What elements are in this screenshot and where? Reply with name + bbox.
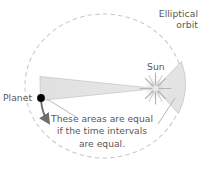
sun-label: Sun (147, 61, 165, 72)
caption-line-2: if the time intervals (38, 125, 166, 137)
caption-line-3: are equal. (38, 138, 166, 150)
planet-dot-icon (37, 94, 45, 102)
planet-label: Planet (3, 92, 32, 103)
caption-line-1: These areas are equal (38, 113, 166, 125)
sun-core (152, 85, 158, 91)
swept-area-wedge-left (40, 77, 156, 101)
elliptical-orbit-label-line1: Elliptical (159, 8, 198, 19)
elliptical-orbit-label-line2: orbit (144, 19, 198, 30)
elliptical-orbit-label: Elliptical orbit (144, 8, 198, 30)
kepler-second-law-diagram: Elliptical orbit Sun Planet These areas … (0, 0, 203, 175)
equal-areas-caption: These areas are equal if the time interv… (38, 113, 166, 150)
